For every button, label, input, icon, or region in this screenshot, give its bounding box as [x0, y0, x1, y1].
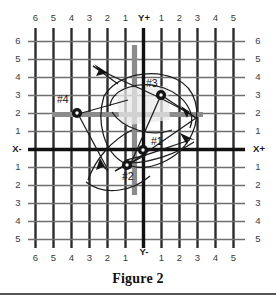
tick-left-8: 2 — [15, 179, 20, 190]
tick-left-11: 5 — [15, 233, 20, 244]
tick-top-9: 3 — [195, 12, 200, 23]
tick-right-0: 6 — [255, 35, 260, 46]
tick-left-1: 5 — [15, 53, 20, 64]
axis-label-x-negative: X- — [12, 143, 22, 154]
arrowhead-upper-left — [94, 64, 108, 76]
tick-right-4: 2 — [255, 107, 260, 118]
tick-top-2: 4 — [69, 12, 74, 23]
tick-bottom-11: 5 — [231, 252, 236, 263]
axis-label-y-positive: Y+ — [138, 12, 150, 23]
tick-labels-top: 6 5 4 3 2 1 Y+ 1 2 3 4 5 — [33, 12, 236, 23]
tick-top-0: 6 — [33, 12, 38, 23]
marker-point-2[interactable] — [122, 160, 132, 170]
tick-right-8: 2 — [255, 179, 260, 190]
tick-bottom-1: 5 — [51, 252, 56, 263]
tick-right-5: 1 — [255, 125, 260, 136]
tick-labels-right: 6 5 4 3 2 1 X+ 1 2 3 4 5 — [253, 35, 265, 244]
point-label-4: #4 — [57, 93, 69, 105]
point-label-1: #1 — [151, 135, 163, 147]
tick-bottom-4: 2 — [105, 252, 110, 263]
tick-right-7: 1 — [255, 161, 260, 172]
tick-left-0: 6 — [15, 35, 20, 46]
tick-right-10: 4 — [255, 215, 260, 226]
tick-top-4: 2 — [105, 12, 110, 23]
tick-left-5: 1 — [15, 125, 20, 136]
figure-caption: Figure 2 — [0, 271, 276, 287]
tick-bottom-8: 2 — [177, 252, 182, 263]
tick-top-10: 4 — [213, 12, 218, 23]
tick-left-2: 4 — [15, 71, 20, 82]
tick-bottom-9: 3 — [195, 252, 200, 263]
tick-right-3: 3 — [255, 89, 260, 100]
tick-top-1: 5 — [51, 12, 56, 23]
tick-bottom-7: 1 — [159, 252, 164, 263]
marker-point-3[interactable] — [156, 90, 166, 100]
tick-bottom-10: 4 — [213, 252, 218, 263]
tick-top-5: 1 — [123, 12, 128, 23]
tick-right-2: 4 — [255, 71, 260, 82]
tick-right-9: 3 — [255, 197, 260, 208]
tick-left-4: 2 — [15, 107, 20, 118]
tick-bottom-5: 1 — [123, 252, 128, 263]
tick-top-11: 5 — [231, 12, 236, 23]
point-label-2: #2 — [122, 170, 134, 182]
marker-point-4[interactable] — [72, 108, 82, 118]
tick-bottom-0: 6 — [33, 252, 38, 263]
tick-right-1: 5 — [255, 53, 260, 64]
tick-top-7: 1 — [159, 12, 164, 23]
point-label-3: #3 — [146, 77, 158, 89]
tick-labels-bottom: 6 5 4 3 2 1 Y- 1 2 3 4 5 — [33, 246, 236, 263]
tick-labels-left: 6 5 4 3 2 1 X- 1 2 3 4 5 — [12, 35, 22, 244]
figure-2-coordinate-diagram: #1 #2 #3 #4 6 5 4 3 2 1 Y+ 1 2 3 4 5 6 5… — [0, 0, 276, 295]
tick-left-10: 4 — [15, 215, 20, 226]
tick-left-7: 1 — [15, 161, 20, 172]
tick-top-8: 2 — [177, 12, 182, 23]
tick-right-11: 5 — [255, 233, 260, 244]
tick-bottom-2: 4 — [69, 252, 74, 263]
axis-label-y-negative: Y- — [140, 246, 149, 257]
marker-point-1[interactable] — [138, 145, 148, 155]
tick-top-3: 3 — [87, 12, 92, 23]
tick-bottom-3: 3 — [87, 252, 92, 263]
tick-left-3: 3 — [15, 89, 20, 100]
axis-label-x-positive: X+ — [253, 143, 265, 154]
tick-left-9: 3 — [15, 197, 20, 208]
